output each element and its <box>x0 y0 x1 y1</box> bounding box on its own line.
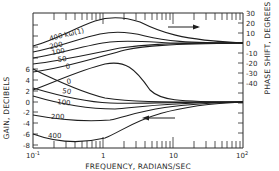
svg-text:102: 102 <box>236 150 248 160</box>
gain-label-50: 50 <box>62 87 72 96</box>
svg-text:-30: -30 <box>246 70 257 78</box>
label-400: 400 kω(1) <box>49 27 86 43</box>
svg-text:-4: -4 <box>23 120 31 128</box>
svg-text:0: 0 <box>26 99 30 107</box>
label-0: 0 <box>65 62 71 71</box>
svg-text:10: 10 <box>246 30 255 38</box>
svg-text:6: 6 <box>26 66 31 74</box>
svg-text:-6: -6 <box>23 131 31 139</box>
svg-text:-2: -2 <box>23 109 30 117</box>
right-ticks <box>238 23 243 133</box>
gain-label-200: 200 <box>51 113 64 121</box>
svg-text:-10: -10 <box>246 50 257 58</box>
gain-label-100: 100 <box>57 98 71 107</box>
svg-text:30: 30 <box>246 10 255 18</box>
svg-text:2: 2 <box>26 88 30 96</box>
bode-chart: 400 kω(1) 200 100 50 0 0 50 100 200 400 … <box>0 0 279 171</box>
right-tick-labels: 30 20 10 0 -10 -20 -30 -40 <box>246 10 257 88</box>
left-ticks <box>33 25 38 145</box>
x-tick-labels: 10-1 1 10 102 <box>26 150 248 160</box>
right-axis-title: PHASE SHIFT, DEGREES <box>263 1 272 94</box>
gain-curve-400 <box>33 102 243 141</box>
gain-arrow <box>142 116 175 121</box>
phase-curve-labels: 400 kω(1) 200 100 50 0 <box>49 27 86 71</box>
svg-text:20: 20 <box>246 20 255 28</box>
svg-text:1: 1 <box>101 152 105 160</box>
x-axis-title: FREQUENCY, RADIANS/SEC <box>85 162 191 171</box>
svg-text:-40: -40 <box>246 80 257 88</box>
left-tick-labels: 6 4 2 0 -2 -4 -6 -8 <box>23 66 31 150</box>
svg-text:4: 4 <box>26 77 31 85</box>
gain-label-400: 400 <box>48 132 61 140</box>
left-axis-title: GAIN, DECIBELS <box>2 76 11 139</box>
svg-text:10: 10 <box>169 152 178 160</box>
gain-label-0: 0 <box>66 77 72 86</box>
svg-text:-8: -8 <box>23 142 30 150</box>
phase-arrow <box>168 25 200 30</box>
gain-curve-labels: 0 50 100 200 400 <box>48 77 72 140</box>
svg-text:0: 0 <box>246 40 250 48</box>
svg-text:-20: -20 <box>246 60 257 68</box>
svg-text:10-1: 10-1 <box>26 150 40 160</box>
